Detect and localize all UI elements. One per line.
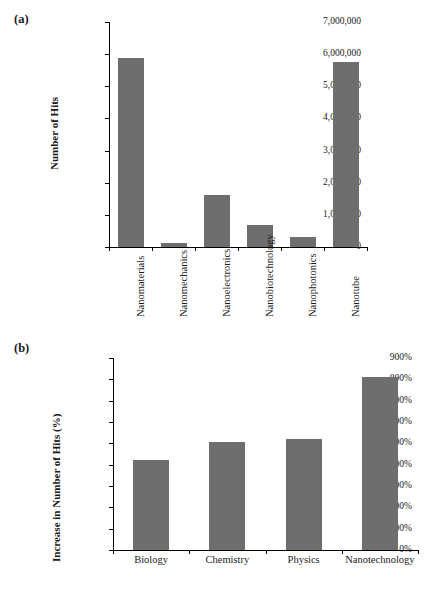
y-tick-mark	[105, 22, 109, 23]
y-tick-mark	[109, 486, 113, 487]
y-tick-mark	[105, 151, 109, 152]
y-axis-title: Increase in Number of Hits (%)	[50, 414, 62, 562]
y-tick-mark	[109, 401, 113, 402]
x-tick-mark	[113, 550, 114, 554]
y-axis-line	[109, 22, 110, 247]
y-axis-title: Number of Hits	[48, 97, 60, 170]
x-tick-mark	[109, 247, 110, 251]
y-tick-mark	[105, 118, 109, 119]
x-tick-mark	[418, 550, 419, 554]
bar	[209, 442, 245, 550]
x-tick-mark	[195, 247, 196, 251]
x-tick-label: Nanotechnology	[345, 554, 414, 565]
bar	[290, 237, 316, 247]
bar	[118, 58, 144, 247]
y-tick-mark	[109, 465, 113, 466]
x-tick-label: Nanotube	[350, 276, 361, 317]
chart-panel-a: Number of Hits01,000,0002,000,0003,000,0…	[0, 0, 437, 330]
x-tick-mark	[266, 550, 267, 554]
figure-container: (a) Number of Hits01,000,0002,000,0003,0…	[0, 0, 437, 606]
bar	[362, 377, 398, 550]
plot-area: 01,000,0002,000,0003,000,0004,000,0005,0…	[109, 22, 367, 247]
bar	[204, 195, 230, 247]
x-tick-label: Nanoelectronics	[221, 249, 232, 317]
y-tick-mark	[105, 86, 109, 87]
y-tick-mark	[105, 183, 109, 184]
y-tick-mark	[109, 529, 113, 530]
x-tick-mark	[367, 247, 368, 251]
bar	[133, 460, 169, 550]
bar	[161, 243, 187, 247]
x-tick-label: Biology	[134, 554, 168, 565]
x-tick-mark	[281, 247, 282, 251]
x-tick-label: Chemistry	[206, 554, 250, 565]
x-tick-label: Nanobiotechnology	[264, 234, 275, 317]
y-tick-mark	[105, 215, 109, 216]
y-axis-line	[113, 358, 114, 550]
bar	[286, 439, 322, 550]
chart-panel-b: Increase in Number of Hits (%)0%100%200%…	[0, 330, 437, 606]
y-tick-mark	[109, 422, 113, 423]
bar	[333, 62, 359, 247]
y-tick-label: 900%	[390, 353, 412, 363]
x-tick-mark	[238, 247, 239, 251]
plot-area: 0%100%200%300%400%500%600%700%800%900%	[113, 358, 418, 550]
x-tick-mark	[189, 550, 190, 554]
x-tick-mark	[324, 247, 325, 251]
x-tick-mark	[342, 550, 343, 554]
x-tick-label: Physics	[288, 554, 320, 565]
x-tick-mark	[152, 247, 153, 251]
y-tick-label: 7,000,000	[323, 17, 361, 27]
y-tick-mark	[109, 443, 113, 444]
x-tick-label: Nanophotonics	[307, 253, 318, 317]
y-tick-mark	[109, 379, 113, 380]
y-tick-mark	[109, 358, 113, 359]
x-tick-label: Nanomaterials	[135, 256, 146, 317]
y-tick-mark	[109, 507, 113, 508]
x-tick-label: Nanomechanics	[178, 250, 189, 317]
y-tick-label: 6,000,000	[323, 49, 361, 59]
y-tick-mark	[105, 54, 109, 55]
